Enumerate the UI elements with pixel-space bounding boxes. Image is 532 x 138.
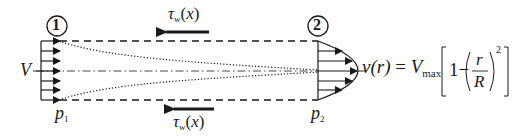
boundary-layer-bottom [62,72,318,99]
eq-frac-num: r [476,50,483,70]
pressure-1-label: p1 [55,103,69,124]
eq-lhs: v(r) [362,56,390,77]
boundary-layer-top [62,42,318,70]
eq-frac-den: R [474,72,484,92]
inlet-uniform-profile [41,41,60,100]
eq-bracket-left [442,47,446,96]
section-1-label: 1 [52,16,60,34]
eq-equals: = [395,56,406,77]
eq-paren-right [490,52,494,91]
eq-coef-sub: max [422,67,441,79]
velocity-profile-equation: v(r) = Vmax [362,56,441,79]
eq-bracket-right [504,47,508,96]
wall-shear-top-label: τw(x) [168,4,199,24]
inlet-velocity-label: V [20,60,31,81]
eq-one-minus: 1− [449,59,469,81]
pressure-2-label: p2 [311,103,325,124]
outlet-parabolic-profile [318,41,358,100]
eq-coef: V [411,56,423,77]
eq-exponent: 2 [496,44,501,55]
wall-shear-bottom-label: τw(x) [173,112,204,132]
section-2-label: 2 [313,16,321,34]
